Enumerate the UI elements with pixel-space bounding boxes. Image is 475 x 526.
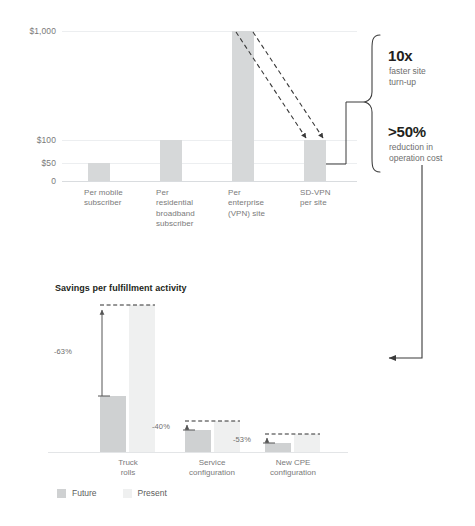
legend-label-future: Future <box>72 488 97 498</box>
legend-item-future: Future <box>57 488 97 498</box>
baseline-axis <box>62 181 357 182</box>
legend-swatch-future-icon <box>57 489 66 498</box>
bar-sd-vpn-per-site <box>304 140 326 181</box>
callout-sub-line: faster site <box>389 66 426 77</box>
cat-label-sd-vpn-per-site: SD-VPN per site <box>300 188 360 209</box>
legend-item-present: Present <box>123 488 167 498</box>
cat-label-per-enterprise-vpn-site: Per enterprise (VPN) site <box>228 188 288 219</box>
callout-sub-50pct: reduction in operation cost <box>389 142 442 164</box>
cat-line: residential <box>156 198 216 208</box>
savings-per-fulfillment-chart: Savings per fulfillment activity -63% -4… <box>0 250 475 526</box>
bar-future-truck-rolls <box>100 396 126 452</box>
cat-line: subscriber <box>156 219 216 229</box>
bar-future-service-configuration <box>185 430 211 452</box>
bar-present-new-cpe-configuration <box>294 434 320 452</box>
cat-line: per site <box>300 198 360 208</box>
bottom-chart-title: Savings per fulfillment activity <box>55 283 187 293</box>
cat-line: Truck <box>88 458 168 468</box>
callout-sub-line: operation cost <box>389 153 442 164</box>
gridline-1000 <box>62 31 357 32</box>
cat-line: Service <box>172 458 252 468</box>
callout-headline-50pct: >50% <box>388 123 426 140</box>
bar-per-enterprise-vpn-site <box>232 31 254 181</box>
y-tick-label-50: $50 <box>12 158 56 168</box>
bottom-cat-label-new-cpe-configuration: New CPE configuration <box>253 458 333 479</box>
pct-label-truck-rolls: -63% <box>54 347 72 356</box>
cat-line: rolls <box>88 468 168 478</box>
cat-label-per-mobile-subscriber: Per mobile subscriber <box>84 188 144 209</box>
bottom-cat-label-service-configuration: Service configuration <box>172 458 252 479</box>
legend-label-present: Present <box>138 488 167 498</box>
bottom-chart-legend: Future Present <box>57 488 193 498</box>
legend-swatch-present-icon <box>123 489 132 498</box>
cat-line: broadband <box>156 209 216 219</box>
cat-line: configuration <box>253 468 333 478</box>
callout-sub-line: turn-up <box>389 77 426 88</box>
pct-label-new-cpe-configuration: -53% <box>233 435 251 444</box>
callout-sub-10x: faster site turn-up <box>389 66 426 88</box>
cat-line: (VPN) site <box>228 209 288 219</box>
pct-label-service-configuration: -40% <box>152 422 170 431</box>
cat-line: Per mobile <box>84 188 144 198</box>
bottom-cat-label-truck-rolls: Truck rolls <box>88 458 168 479</box>
bottom-baseline-axis <box>48 452 348 453</box>
bar-per-residential-broadband <box>160 140 182 181</box>
bar-per-mobile-subscriber <box>88 163 110 181</box>
cat-line: New CPE <box>253 458 333 468</box>
cat-line: subscriber <box>84 198 144 208</box>
callout-headline-10x: 10x <box>388 47 412 64</box>
cat-label-per-residential-broadband: Per residential broadband subscriber <box>156 188 216 230</box>
y-tick-label-1000: $1,000 <box>12 26 56 36</box>
bar-future-new-cpe-configuration <box>265 443 291 452</box>
cat-line: Per <box>228 188 288 198</box>
cat-line: configuration <box>172 468 252 478</box>
y-tick-label-100: $100 <box>12 135 56 145</box>
y-tick-label-0: 0 <box>12 176 56 186</box>
cat-line: SD-VPN <box>300 188 360 198</box>
cat-line: Per <box>156 188 216 198</box>
callout-sub-line: reduction in <box>389 142 442 153</box>
cat-line: enterprise <box>228 198 288 208</box>
infographic-canvas: $1,000 $100 $50 0 Per mobile subscriber … <box>0 0 475 526</box>
